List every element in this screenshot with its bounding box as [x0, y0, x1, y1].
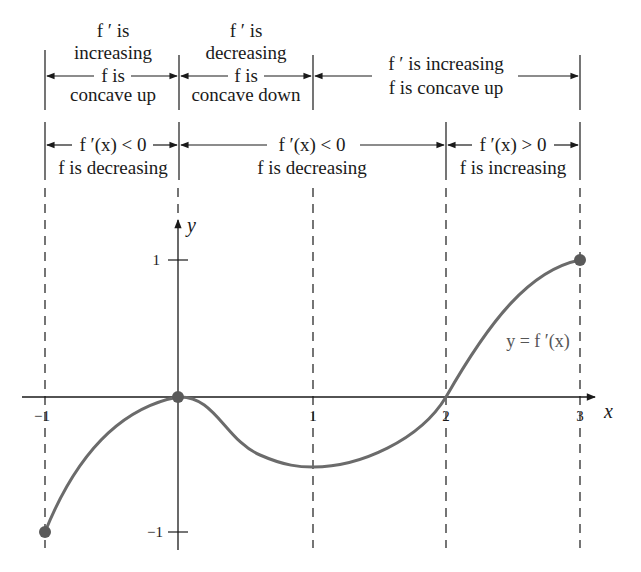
top-region1-line1: f ′ is: [97, 20, 130, 41]
top-region3-line1: f ′ is increasing: [388, 53, 504, 74]
bottom-region3-line2: f is increasing: [460, 157, 567, 178]
y-axis-label: y: [185, 214, 196, 237]
bottom-region2-line2: f is decreasing: [257, 157, 367, 178]
bottom-region1-line2: f is decreasing: [58, 157, 168, 178]
top-region2-line4: concave down: [191, 84, 301, 105]
top-region1-line3: f is: [101, 65, 125, 86]
x-tick-label-2: 2: [442, 408, 450, 424]
curve-label: y = f ′(x): [506, 331, 570, 352]
top-region2-line1: f ′ is: [230, 20, 263, 41]
top-region2-line2: decreasing: [205, 42, 287, 63]
bottom-region2-line1: f ′(x) < 0: [278, 134, 345, 156]
point-3-1: [574, 254, 586, 266]
bottom-region1-line1: f ′(x) < 0: [79, 134, 146, 156]
bottom-header: f ′(x) < 0 f is decreasing f ′(x) < 0 f …: [45, 122, 580, 180]
top-region3-line2: f is concave up: [389, 77, 503, 98]
top-header: f ′ is increasing f is concave up f ′ is…: [45, 20, 580, 110]
y-tick-label-1: 1: [153, 252, 161, 268]
bottom-region3-line1: f ′(x) > 0: [479, 134, 546, 156]
top-region2-line3: f is: [234, 65, 258, 86]
point-origin: [172, 391, 184, 403]
top-region1-line4: concave up: [70, 84, 156, 105]
top-region1-line2: increasing: [74, 42, 153, 63]
derivative-diagram: f ′ is increasing f is concave up f ′ is…: [0, 0, 641, 572]
axes: x y 1 −1 −1 1 2 3: [22, 214, 613, 550]
x-tick-label-neg1: −1: [34, 408, 50, 424]
x-tick-label-3: 3: [576, 408, 584, 424]
y-tick-label-neg1: −1: [147, 524, 163, 540]
x-axis-label: x: [603, 400, 613, 422]
dashed-guides: [45, 188, 580, 548]
point-neg1-neg1: [39, 526, 51, 538]
x-tick-label-1: 1: [309, 408, 317, 424]
